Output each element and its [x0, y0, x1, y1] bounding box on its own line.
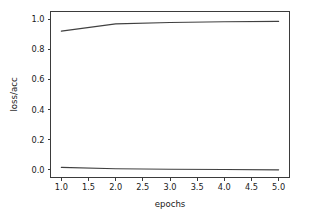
y-tick-label: 1.0: [31, 14, 44, 24]
x-tick-label: 2.0: [109, 182, 122, 192]
y-tick-label: 0.0: [31, 165, 44, 175]
x-tick-label: 5.0: [272, 182, 285, 192]
plot-background: [51, 12, 290, 178]
plot-canvas: 1.01.52.02.53.03.54.04.55.0 0.00.20.40.6…: [0, 0, 311, 216]
x-tick-label: 1.0: [55, 182, 68, 192]
y-tick-label: 0.6: [31, 74, 44, 84]
y-tick-label: 0.2: [31, 135, 44, 145]
x-axis-ticks: 1.01.52.02.53.03.54.04.55.0: [55, 178, 285, 193]
y-tick-label: 0.8: [31, 44, 44, 54]
x-tick-label: 1.5: [82, 182, 95, 192]
y-tick-label: 0.4: [31, 105, 44, 115]
x-tick-label: 2.5: [136, 182, 149, 192]
y-axis-ticks: 0.00.20.40.60.81.0: [31, 14, 50, 175]
y-axis-label: loss/acc: [9, 77, 19, 111]
x-tick-label: 4.5: [245, 182, 258, 192]
x-tick-label: 3.5: [191, 182, 204, 192]
x-axis-label: epochs: [155, 199, 186, 209]
x-tick-label: 4.0: [218, 182, 231, 192]
chart-figure: 1.01.52.02.53.03.54.04.55.0 0.00.20.40.6…: [0, 0, 311, 216]
x-tick-label: 3.0: [163, 182, 176, 192]
